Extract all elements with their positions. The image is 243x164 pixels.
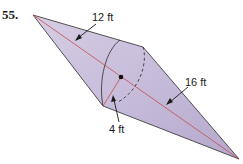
label-12ft: 12 ft [92, 11, 113, 23]
axis-line [33, 15, 239, 159]
label-4ft: 4 ft [109, 123, 124, 135]
center-point [119, 75, 124, 80]
label-16ft: 16 ft [185, 76, 206, 88]
composite-solid-figure [0, 0, 243, 164]
